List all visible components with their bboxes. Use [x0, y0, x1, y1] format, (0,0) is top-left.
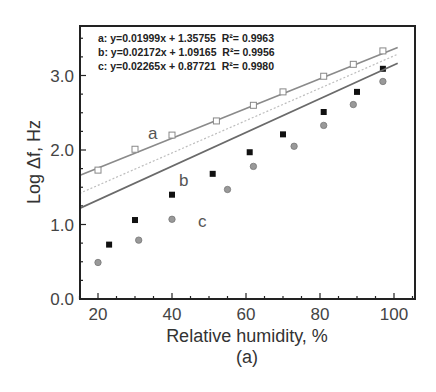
data-point-c: [250, 163, 256, 169]
data-point-a: [350, 61, 356, 67]
data-point-c: [136, 237, 142, 243]
series-label-a: a: [148, 124, 158, 143]
y-tick-label: 3.0: [50, 67, 74, 86]
data-point-b: [210, 171, 216, 177]
data-point-b: [106, 242, 112, 248]
chart: 0.0 1.0 2.0 3.0 20 40 60 80 100 Relative…: [0, 0, 436, 392]
data-point-c: [95, 259, 101, 265]
data-point-a: [132, 146, 138, 152]
x-tick-label: 80: [311, 305, 330, 324]
data-point-b: [169, 192, 175, 198]
x-tick-label: 100: [380, 305, 408, 324]
data-point-b: [280, 131, 286, 137]
data-point-c: [321, 122, 327, 128]
y-axis-title: Log Δf, Hz: [24, 120, 44, 204]
data-point-b: [247, 149, 253, 155]
series-label-b: b: [179, 171, 188, 190]
equation-c: c: y=0.02265x + 0.87721 R²= 0.9980: [98, 60, 274, 72]
equation-a: a: y=0.01999x + 1.35755 R²= 0.9963: [98, 32, 274, 44]
y-tick-label: 1.0: [50, 216, 74, 235]
data-point-c: [169, 216, 175, 222]
data-point-c: [224, 186, 230, 192]
data-point-b: [321, 109, 327, 115]
data-point-a: [169, 132, 175, 138]
data-point-c: [350, 101, 356, 107]
equation-b: b: y=0.02172x + 1.09165 R²= 0.9956: [98, 46, 275, 58]
data-point-c: [380, 78, 386, 84]
data-point-b: [354, 89, 360, 95]
series-label-c: c: [198, 212, 207, 231]
y-tick-label: 0.0: [50, 290, 74, 309]
data-point-a: [321, 73, 327, 79]
data-point-a: [95, 167, 101, 173]
data-point-a: [213, 118, 219, 124]
y-tick-label: 2.0: [50, 141, 74, 160]
x-tick-label: 60: [237, 305, 256, 324]
panel-label: (a): [236, 347, 258, 367]
data-point-a: [380, 48, 386, 54]
data-point-b: [132, 217, 138, 223]
x-axis-title: Relative humidity, %: [166, 326, 328, 346]
x-tick-label: 40: [163, 305, 182, 324]
x-tick-label: 20: [89, 305, 108, 324]
data-point-a: [250, 102, 256, 108]
data-point-c: [291, 143, 297, 149]
data-point-a: [280, 89, 286, 95]
